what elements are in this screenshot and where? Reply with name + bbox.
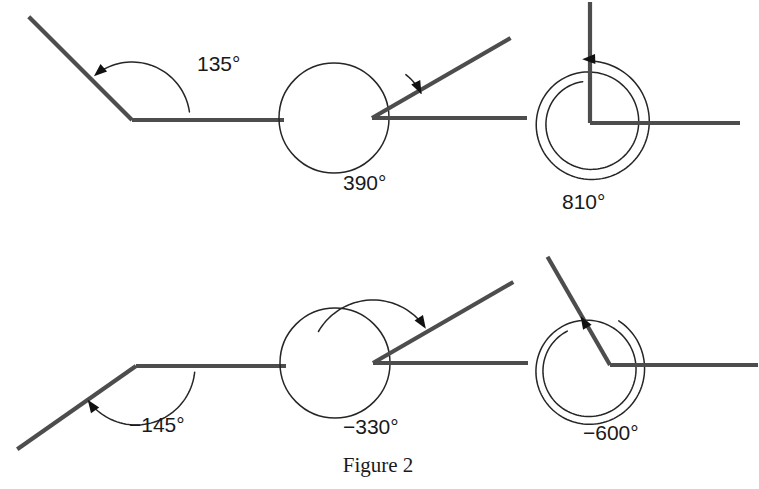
rotation-loop-outer	[536, 320, 645, 424]
terminal-ray	[372, 38, 511, 118]
angle-diagram-angle-135: 135°	[29, 17, 284, 120]
rotation-loop-outer	[536, 61, 649, 180]
terminal-ray	[373, 282, 513, 363]
angle-label-angle-810: 810°	[562, 190, 605, 213]
angle-label-angle-neg330: −330°	[343, 415, 399, 438]
angle-label-angle-neg600: −600°	[583, 421, 639, 444]
angle-label-angle-390: 390°	[343, 171, 386, 194]
terminal-ray	[29, 17, 132, 120]
terminal-ray	[17, 366, 136, 449]
figure-caption: Figure 2	[343, 453, 414, 477]
angles-figure-svg: 135°390°810°−145°−330°−600° Figure 2	[0, 0, 759, 489]
figure-2-container: 135°390°810°−145°−330°−600° Figure 2	[0, 0, 759, 489]
angle-diagram-angle-neg330: −330°	[280, 282, 528, 438]
rotation-arc	[96, 62, 189, 112]
angle-diagram-angle-390: 390°	[279, 38, 527, 194]
angle-label-angle-neg145: −145°	[129, 413, 185, 436]
rotation-arrowhead	[94, 64, 107, 76]
angle-label-angle-135: 135°	[197, 52, 240, 75]
rotation-arc	[318, 300, 424, 332]
rotation-loop-inner	[543, 328, 636, 416]
terminal-ray	[548, 257, 611, 365]
rotation-loop-inner	[546, 72, 639, 169]
angle-diagram-angle-neg600: −600°	[536, 257, 758, 444]
angle-diagram-angle-neg145: −145°	[17, 366, 286, 449]
angle-diagram-angle-810: 810°	[536, 2, 740, 213]
diagrams-group: 135°390°810°−145°−330°−600°	[17, 2, 758, 449]
